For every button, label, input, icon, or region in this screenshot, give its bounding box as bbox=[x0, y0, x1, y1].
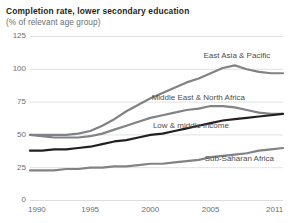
y-axis-tick-label: 125 bbox=[4, 32, 26, 40]
x-axis-tick-label-2000: 2000 bbox=[141, 206, 159, 214]
y-axis-tick-label: 100 bbox=[4, 65, 26, 73]
chart-container: Completion rate, lower secondary educati… bbox=[0, 0, 288, 223]
y-axis-tick-label: 0 bbox=[4, 196, 26, 204]
y-axis-tick-label: 50 bbox=[4, 131, 26, 139]
series-label-2: Low & middle income bbox=[153, 122, 229, 130]
x-axis-tick-label-2005: 2005 bbox=[202, 206, 220, 214]
x-axis-tick-label-1995: 1995 bbox=[81, 206, 99, 214]
plot-area: 025507510012519901995200020052011East As… bbox=[0, 0, 288, 223]
series-label-1: Middle East & North Africa bbox=[152, 94, 245, 102]
x-axis-tick-label-2011: 2011 bbox=[266, 206, 283, 214]
series-label-0: East Asia & Pacific bbox=[203, 52, 270, 60]
x-axis-tick-label-1990: 1990 bbox=[28, 206, 46, 214]
y-axis-tick-label: 25 bbox=[4, 164, 26, 172]
chart-svg bbox=[0, 0, 288, 223]
y-axis-tick-label: 75 bbox=[4, 98, 26, 106]
series-line-2 bbox=[30, 114, 283, 151]
series-label-3: Sub-Saharan Africa bbox=[205, 155, 274, 163]
